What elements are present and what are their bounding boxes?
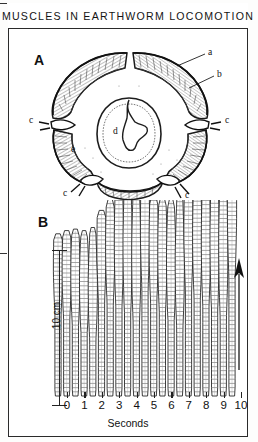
- worm-tracing: [175, 200, 184, 396]
- scale-bar-label: 10 cm: [51, 286, 62, 346]
- worm-tracing: [97, 210, 106, 396]
- worm-tracing: [184, 200, 193, 396]
- x-axis-tick: [67, 392, 68, 398]
- x-axis-tick-label: 10: [232, 399, 250, 411]
- worm-tracing: [71, 229, 80, 396]
- worm-tracing: [201, 200, 210, 396]
- x-axis-title: Seconds: [9, 417, 247, 429]
- worm-tracing: [219, 200, 228, 396]
- panel-a-cross-section: a b c c c c d e: [9, 30, 247, 202]
- panel-a-letter: A: [34, 52, 44, 68]
- crop-mark-mid-left: [0, 253, 7, 254]
- x-axis-tick-label: 1: [75, 399, 93, 411]
- label-c-left: c: [29, 115, 33, 125]
- direction-of-travel-arrow: [233, 258, 245, 370]
- x-axis-tick-label: 3: [110, 399, 128, 411]
- x-axis: 012345678910 Seconds: [9, 392, 247, 440]
- scale-bar-cap-top: [52, 250, 67, 251]
- x-axis-tick-label: 2: [93, 399, 111, 411]
- worm-tracing: [158, 200, 167, 396]
- x-axis-tick-label: 0: [58, 399, 76, 411]
- x-axis-tick: [241, 392, 242, 398]
- x-axis-tick-label: 5: [145, 399, 163, 411]
- panel-b-letter: B: [38, 214, 48, 230]
- x-axis-tick: [206, 392, 207, 398]
- x-axis-tick: [189, 392, 190, 398]
- x-axis-tick-label: 4: [128, 399, 146, 411]
- figure-root: MUSCLES IN EARTHWORM LOCOMOTION: [0, 0, 258, 442]
- worm-tracing: [106, 200, 115, 396]
- label-d: d: [113, 126, 118, 136]
- x-axis-tick: [102, 392, 103, 398]
- x-axis-tick-label: 9: [215, 399, 233, 411]
- label-c-right: c: [225, 115, 229, 125]
- x-axis-tick: [224, 392, 225, 398]
- figure-title-band: MUSCLES IN EARTHWORM LOCOMOTION: [8, 3, 248, 29]
- worm-tracing: [114, 200, 123, 396]
- x-axis-tick: [84, 392, 85, 398]
- setae-bundle-left: [39, 120, 75, 130]
- worm-tracing: [80, 231, 89, 396]
- body-wall-arc-bottom: [95, 180, 165, 201]
- crop-mark-top-left: [0, 3, 7, 4]
- x-axis-tick: [154, 392, 155, 398]
- worm-tracing: [140, 200, 149, 396]
- x-axis-tick: [119, 392, 120, 398]
- setae-bundle-right: [185, 120, 221, 130]
- worm-tracing: [88, 228, 97, 397]
- gut-intestine: [97, 98, 161, 168]
- figure-title: MUSCLES IN EARTHWORM LOCOMOTION: [2, 10, 254, 22]
- scale-bar: 10 cm: [48, 250, 72, 406]
- worm-tracing: [132, 200, 141, 396]
- worm-tracing: [193, 200, 202, 396]
- x-axis-tick-label: 7: [180, 399, 198, 411]
- x-axis-tick: [171, 392, 172, 398]
- x-axis-tick: [137, 392, 138, 398]
- label-e: e: [71, 144, 75, 154]
- worm-tracing: [167, 200, 176, 396]
- label-a: a: [208, 47, 212, 57]
- worm-tracing: [123, 200, 132, 396]
- x-axis-tick-label: 8: [197, 399, 215, 411]
- worm-tracing: [149, 200, 158, 396]
- label-b: b: [217, 69, 222, 79]
- label-c-bottom-left: c: [63, 188, 67, 198]
- worm-tracing: [210, 200, 219, 396]
- x-axis-tick-label: 6: [162, 399, 180, 411]
- label-c-bottom-right: c: [185, 190, 189, 200]
